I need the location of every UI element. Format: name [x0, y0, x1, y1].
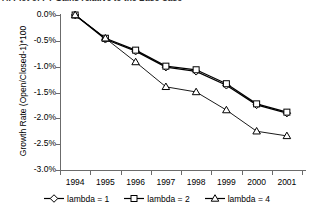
series-square: [72, 12, 290, 115]
data-point: [223, 81, 229, 87]
x-tick-mark: [121, 171, 122, 175]
y-tick-mark: [56, 144, 60, 145]
x-tick-label: 2001: [267, 177, 307, 187]
series-triangle: [71, 11, 290, 138]
data-point: [132, 58, 140, 64]
legend-marker-square-icon: [123, 193, 145, 204]
y-tick-mark: [56, 41, 60, 42]
x-tick-mark: [272, 171, 273, 175]
y-tick-mark: [56, 93, 60, 94]
legend-marker-diamond-icon: [43, 193, 65, 204]
legend-entry[interactable]: lambda = 2: [123, 193, 189, 204]
legend-label: lambda = 2: [147, 194, 189, 204]
data-point: [253, 127, 261, 133]
x-tick-mark: [211, 171, 212, 175]
data-point: [284, 109, 290, 115]
x-tick-mark: [181, 171, 182, 175]
data-point: [223, 106, 231, 112]
y-tick-mark: [56, 118, 60, 119]
series-line: [75, 15, 287, 113]
legend-entry[interactable]: lambda = 4: [204, 193, 270, 204]
chart-legend: lambda = 1lambda = 2lambda = 4: [0, 193, 313, 204]
data-point: [193, 67, 199, 73]
data-point: [163, 63, 169, 69]
y-tick-mark: [56, 15, 60, 16]
data-point: [254, 101, 260, 107]
x-tick-mark: [60, 171, 61, 175]
data-point: [162, 83, 170, 89]
legend-entry[interactable]: lambda = 1: [43, 193, 109, 204]
chart-figure: A: Plot of PT Gains relative to the Base…: [0, 0, 313, 215]
y-tick-mark: [56, 67, 60, 68]
x-tick-mark: [90, 171, 91, 175]
x-tick-mark: [302, 171, 303, 175]
legend-label: lambda = 1: [67, 194, 109, 204]
data-point: [133, 47, 139, 53]
series-line: [75, 15, 287, 136]
x-tick-mark: [242, 171, 243, 175]
legend-marker-triangle-icon: [204, 193, 226, 204]
legend-label: lambda = 4: [228, 194, 270, 204]
x-tick-mark: [151, 171, 152, 175]
series-line: [75, 15, 287, 112]
